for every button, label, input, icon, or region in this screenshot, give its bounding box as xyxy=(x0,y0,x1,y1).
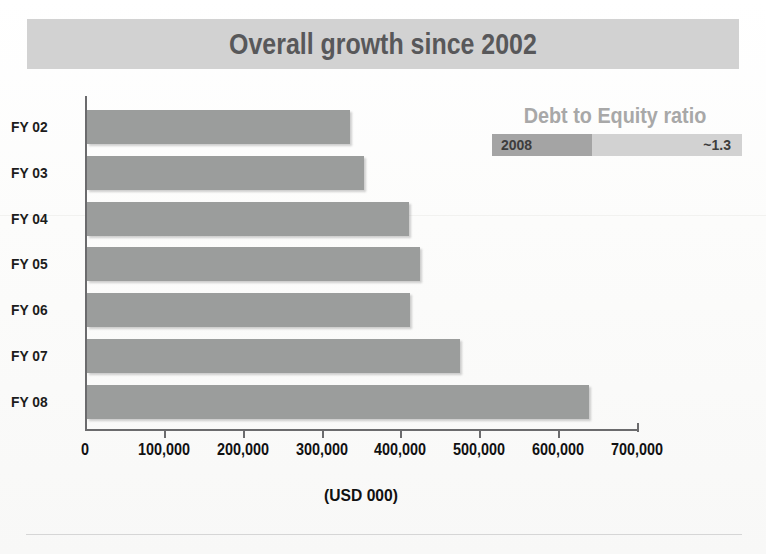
bar-fy-04 xyxy=(87,202,409,236)
debt-to-equity-legend: Debt to Equity ratio 2008 ~1.3 xyxy=(489,103,741,156)
bar-fy-06 xyxy=(87,293,410,327)
x-tick-label-100000: 100,000 xyxy=(138,441,190,459)
bar-chart: FY 02FY 03FY 04FY 05FY 06FY 07FY 08 0100… xyxy=(0,0,766,554)
bar-fill xyxy=(87,247,420,281)
x-tick-500000 xyxy=(479,431,481,438)
legend-year-cell: 2008 xyxy=(492,134,592,156)
bar-fill xyxy=(87,110,350,144)
bar-fy-08 xyxy=(87,385,589,419)
bar-fy-03 xyxy=(87,156,364,190)
x-tick-300000 xyxy=(322,431,324,438)
x-tick-400000 xyxy=(400,431,402,438)
bar-fill xyxy=(87,202,409,236)
y-axis-labels: FY 02FY 03FY 04FY 05FY 06FY 07FY 08 xyxy=(11,96,85,430)
x-tick-label-700000: 700,000 xyxy=(611,441,663,459)
y-axis-label-fy-07: FY 07 xyxy=(11,347,79,364)
x-tick-label-200000: 200,000 xyxy=(217,441,269,459)
y-axis-label-fy-06: FY 06 xyxy=(11,301,79,318)
x-tick-100000 xyxy=(164,431,166,438)
y-axis-label-fy-04: FY 04 xyxy=(11,210,79,227)
bar-fy-07 xyxy=(87,339,460,373)
legend-heading: Debt to Equity ratio xyxy=(502,103,729,129)
x-tick-label-400000: 400,000 xyxy=(374,441,426,459)
bar-fy-02 xyxy=(87,110,350,144)
x-tick-600000 xyxy=(558,431,560,438)
bar-fill xyxy=(87,339,460,373)
y-axis-label-fy-08: FY 08 xyxy=(11,393,79,410)
page-bottom-rule xyxy=(26,534,742,535)
x-tick-label-600000: 600,000 xyxy=(532,441,584,459)
x-tick-label-500000: 500,000 xyxy=(453,441,505,459)
legend-value-cell: ~1.3 xyxy=(592,134,742,156)
y-axis-label-fy-03: FY 03 xyxy=(11,164,79,181)
legend-table: 2008 ~1.3 xyxy=(492,134,742,156)
y-axis-label-fy-05: FY 05 xyxy=(11,255,79,272)
x-tick-label-300000: 300,000 xyxy=(296,441,348,459)
bar-fill xyxy=(87,385,589,419)
x-tick-200000 xyxy=(243,431,245,438)
y-axis-label-fy-02: FY 02 xyxy=(11,118,79,135)
x-axis-title: (USD 000) xyxy=(29,486,693,506)
x-tick-700000 xyxy=(637,423,639,432)
bar-fill xyxy=(87,293,410,327)
bar-fy-05 xyxy=(87,247,420,281)
x-tick-label-0: 0 xyxy=(81,441,89,459)
bar-fill xyxy=(87,156,364,190)
